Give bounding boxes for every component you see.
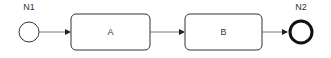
start-event-label: N1 [23,2,35,12]
start-event[interactable]: N1 [19,2,39,42]
end-event[interactable]: N2 [290,2,312,43]
task-b[interactable]: B [185,14,262,50]
task-a[interactable]: A [71,14,150,50]
task-a-label: A [107,27,113,37]
end-event-label: N2 [295,2,307,12]
bpmn-diagram: N1 A B N2 [0,0,331,58]
task-b-label: B [220,27,226,37]
